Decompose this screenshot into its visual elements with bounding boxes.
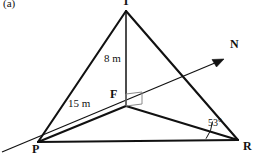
vertex-label-north: N xyxy=(230,38,239,50)
angle-label-53: 53° xyxy=(208,118,222,128)
vertex-label-left: P xyxy=(32,143,39,155)
measure-label-height: 8 m xyxy=(104,53,121,64)
geometry-diagram xyxy=(0,0,258,158)
vertex-label-right: R xyxy=(243,140,252,152)
vertex-label-apex: T xyxy=(122,0,130,7)
north-arrowhead xyxy=(212,59,224,67)
part-label: (a) xyxy=(3,0,15,9)
segment-T-P xyxy=(38,11,126,142)
vertex-label-foot: F xyxy=(110,88,117,100)
figure-canvas: (a) T P R F N 8 m 15 m 53° xyxy=(0,0,258,158)
measure-label-base: 15 m xyxy=(68,98,90,109)
north-bearing-line xyxy=(2,60,222,152)
segment-P-R xyxy=(38,140,238,142)
